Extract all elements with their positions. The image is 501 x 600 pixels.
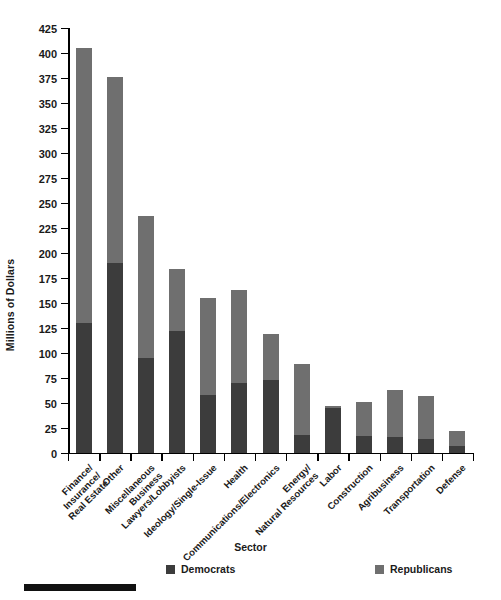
bar-segment-republicans — [138, 216, 154, 358]
bar-segment-republicans — [169, 269, 185, 331]
y-axis-tick: 0 — [61, 453, 68, 454]
bar-stack — [325, 406, 341, 453]
bar-stack — [356, 402, 372, 453]
chart-legend: DemocratsRepublicans — [0, 561, 501, 579]
x-axis-tick — [317, 453, 318, 461]
bar-stack — [138, 216, 154, 453]
x-axis-label-line: Finance/ — [0, 462, 94, 600]
bar-stack — [107, 77, 123, 453]
x-axis-tick — [442, 453, 443, 461]
bar-stack — [169, 269, 185, 453]
y-axis-tick-label: 425 — [39, 23, 57, 34]
legend-swatch — [375, 565, 384, 574]
x-axis-label: Energy/Natural Resources — [156, 462, 320, 600]
x-axis-label-line: Insurance/ — [0, 470, 102, 600]
x-axis-label-line: Agribusiness — [250, 462, 406, 600]
y-axis-tick: 325 — [61, 128, 68, 129]
x-axis-label: Defense — [312, 462, 468, 600]
bar-segment-democrats — [76, 323, 92, 453]
bar-segment-republicans — [356, 402, 372, 436]
bar-stack — [263, 334, 279, 453]
y-axis-tick-label: 25 — [45, 423, 57, 434]
x-axis-tick — [473, 453, 474, 461]
x-axis-tick — [161, 453, 162, 461]
y-axis-tick: 350 — [61, 103, 68, 104]
x-axis-label-line: Health — [94, 462, 250, 600]
bar-stack — [449, 431, 465, 453]
y-axis-tick: 400 — [61, 53, 68, 54]
x-axis-tick — [255, 453, 256, 461]
x-axis-label: MiscellaneousBusiness — [0, 462, 164, 600]
x-axis-label: Transportation — [281, 462, 437, 600]
bar-stack — [387, 390, 403, 453]
y-axis-tick: 25 — [61, 428, 68, 429]
y-axis-tick: 150 — [61, 303, 68, 304]
y-axis-tick: 250 — [61, 203, 68, 204]
x-axis-label-line: Defense — [312, 462, 468, 600]
y-axis-tick-label: 175 — [39, 273, 57, 284]
x-axis-label-line: Miscellaneous — [0, 462, 156, 600]
x-axis-tick — [286, 453, 287, 461]
x-axis-tick — [99, 453, 100, 461]
x-axis-label: Finance/Insurance/Real Estate — [0, 462, 110, 600]
bar-segment-republicans — [418, 396, 434, 439]
x-axis-label-line: Transportation — [281, 462, 437, 600]
bar-stack — [76, 48, 92, 453]
legend-item[interactable]: Democrats — [166, 563, 235, 575]
y-axis-tick: 225 — [61, 228, 68, 229]
x-axis-label-line: Lawyers/Lobbyists — [32, 462, 188, 600]
bar-chart: Millions of Dollars 02550751001251501752… — [0, 0, 501, 600]
y-axis-tick-label: 250 — [39, 198, 57, 209]
y-axis-tick-label: 400 — [39, 48, 57, 59]
y-axis-tick-label: 0 — [51, 448, 57, 459]
plot-area: 0255075100125150175200225250275300325350… — [68, 28, 473, 453]
x-axis-tick — [411, 453, 412, 461]
bar-segment-republicans — [263, 334, 279, 380]
y-axis-tick: 125 — [61, 328, 68, 329]
x-axis-tick — [68, 453, 69, 461]
y-axis-tick: 175 — [61, 278, 68, 279]
legend-item[interactable]: Republicans — [375, 563, 452, 575]
bar-segment-democrats — [449, 446, 465, 453]
y-axis-title: Millions of Dollars — [4, 35, 16, 215]
x-axis-tick — [348, 453, 349, 461]
y-axis-tick-label: 50 — [45, 398, 57, 409]
x-axis-label: Lawyers/Lobbyists — [32, 462, 188, 600]
x-axis-label-line: Ideology/Single-Issue — [63, 462, 219, 600]
x-axis-label-line: Real Estate — [0, 478, 110, 600]
x-axis-label: Construction — [218, 462, 374, 600]
bar-segment-republicans — [107, 77, 123, 263]
y-axis-tick: 275 — [61, 178, 68, 179]
y-axis-tick: 375 — [61, 78, 68, 79]
y-axis-tick: 50 — [61, 403, 68, 404]
x-axis-tick — [380, 453, 381, 461]
bar-segment-democrats — [200, 395, 216, 453]
x-axis-label: Health — [94, 462, 250, 600]
y-axis-tick-label: 100 — [39, 348, 57, 359]
y-axis-tick: 300 — [61, 153, 68, 154]
legend-label: Republicans — [390, 563, 452, 575]
bar-segment-democrats — [138, 358, 154, 453]
x-axis-title: Sector — [0, 541, 501, 553]
bar-segment-democrats — [418, 439, 434, 453]
x-axis-tick — [130, 453, 131, 461]
bar-segment-republicans — [200, 298, 216, 395]
bar-segment-democrats — [263, 380, 279, 453]
y-axis-tick: 75 — [61, 378, 68, 379]
y-axis-tick-label: 350 — [39, 98, 57, 109]
bar-segment-republicans — [76, 48, 92, 323]
x-axis-label: Ideology/Single-Issue — [63, 462, 219, 600]
y-axis-tick-label: 275 — [39, 173, 57, 184]
x-axis-label-line: Business — [8, 470, 164, 600]
legend-swatch — [166, 565, 175, 574]
bar-segment-democrats — [107, 263, 123, 453]
y-axis-tick-label: 75 — [45, 373, 57, 384]
bar-segment-republicans — [387, 390, 403, 437]
x-axis-label-line: Energy/ — [156, 462, 312, 600]
bar-segment-republicans — [449, 431, 465, 446]
y-axis-tick: 425 — [61, 28, 68, 29]
x-axis-label-line: Other — [0, 462, 126, 600]
x-axis-label-line: Natural Resources — [164, 470, 320, 600]
x-axis-label: Other — [0, 462, 126, 600]
x-axis-tick — [193, 453, 194, 461]
